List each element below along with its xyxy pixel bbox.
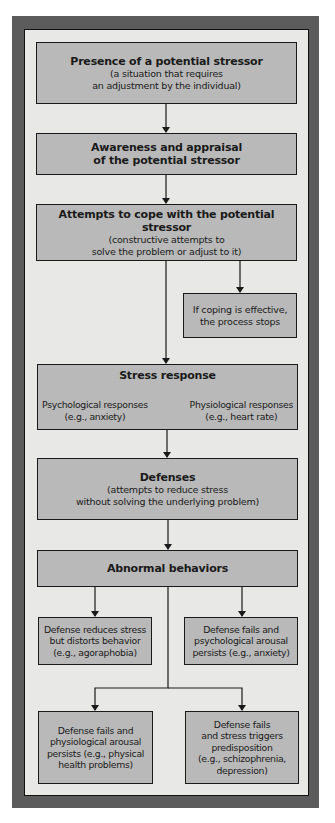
- stress-response-title: Stress response: [119, 369, 216, 382]
- outcome-psych-line-1: Defense fails and: [203, 624, 279, 636]
- cope-sub-1: (constructive attempts to: [108, 234, 224, 246]
- psychological-responses-label: Psychological responses: [42, 399, 148, 411]
- outcome-physio-line-4: health problems): [58, 759, 133, 771]
- cope-sub-2: solve the problem or adjust to it): [92, 246, 242, 258]
- outcome-psych-line-3: persists (e.g., anxiety): [192, 647, 289, 659]
- coping-effective-box: If coping is effective, the process stop…: [183, 293, 297, 338]
- cope-box: Attempts to cope with the potential stre…: [36, 204, 297, 261]
- appraisal-box: Awareness and appraisal of the potential…: [36, 133, 297, 175]
- outcome-psych-box: Defense fails and psychological arousal …: [184, 617, 298, 665]
- stressor-sub-2: an adjustment by the individual): [92, 80, 241, 92]
- abnormal-behaviors-title: Abnormal behaviors: [107, 562, 228, 575]
- physiological-responses-label: Physiological responses: [190, 399, 293, 411]
- defenses-sub-1: (attempts to reduce stress: [107, 484, 228, 496]
- coping-effective-line-2: the process stops: [200, 316, 280, 328]
- stressor-title: Presence of a potential stressor: [70, 55, 262, 68]
- outcome-distorts-line-3: (e.g., agoraphobia): [53, 647, 136, 659]
- outcome-physio-line-1: Defense fails and: [58, 725, 134, 737]
- physiological-responses-example: (e.g., heart rate): [190, 411, 293, 423]
- outcome-predisposition-line-3: predisposition: [211, 742, 272, 754]
- cope-title: Attempts to cope with the potential stre…: [37, 208, 296, 234]
- appraisal-line-1: Awareness and appraisal: [91, 141, 242, 154]
- outcome-predisposition-line-5: depression): [216, 765, 267, 777]
- stress-response-box: Stress response Psychological responses …: [37, 364, 298, 430]
- outcome-distorts-box: Defense reduces stress but distorts beha…: [38, 617, 152, 665]
- defenses-box: Defenses (attempts to reduce stress with…: [37, 458, 298, 520]
- defenses-sub-2: without solving the underlying problem): [76, 496, 259, 508]
- outcome-distorts-line-2: but distorts behavior: [50, 635, 141, 647]
- defenses-title: Defenses: [140, 471, 196, 484]
- outcome-physio-box: Defense fails and physiological arousal …: [38, 711, 153, 784]
- outcome-predisposition-line-1: Defense fails: [214, 719, 270, 731]
- outcome-predisposition-line-4: (e.g., schizophrenia,: [198, 753, 286, 765]
- outcome-predisposition-line-2: and stress triggers: [201, 730, 282, 742]
- outcome-physio-line-2: physiological arousal: [50, 736, 141, 748]
- abnormal-behaviors-box: Abnormal behaviors: [37, 550, 298, 587]
- psychological-responses-example: (e.g., anxiety): [42, 411, 148, 423]
- stressor-sub-1: (a situation that requires: [110, 68, 223, 80]
- outcome-predisposition-box: Defense fails and stress triggers predis…: [185, 711, 299, 784]
- coping-effective-line-1: If coping is effective,: [193, 304, 287, 316]
- stressor-box: Presence of a potential stressor (a situ…: [36, 42, 297, 104]
- outcome-psych-line-2: psychological arousal: [194, 635, 288, 647]
- outcome-physio-line-3: persists (e.g., physical: [47, 748, 144, 760]
- appraisal-line-2: of the potential stressor: [93, 154, 239, 167]
- outcome-distorts-line-1: Defense reduces stress: [44, 624, 146, 636]
